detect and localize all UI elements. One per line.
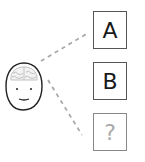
option-label-a: A: [102, 18, 117, 43]
option-label-unknown: ?: [104, 120, 116, 145]
option-box-a: A: [93, 11, 127, 49]
option-label-b: B: [102, 69, 117, 94]
option-box-b: B: [93, 62, 127, 100]
dashed-connector-a: [41, 33, 88, 61]
option-box-unknown: ?: [93, 113, 127, 151]
head-icon: [6, 63, 42, 110]
dashed-connector-unknown: [48, 80, 82, 135]
